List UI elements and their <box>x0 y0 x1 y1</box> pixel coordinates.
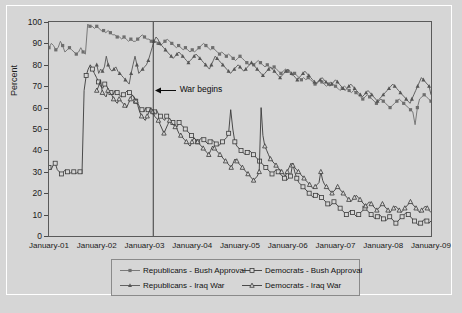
data-point-open-square <box>78 170 82 174</box>
data-point-open-square <box>375 215 379 219</box>
data-point-open-square <box>357 213 361 217</box>
data-point-open-square <box>270 172 274 176</box>
data-point-filled-square <box>259 61 262 64</box>
data-point-filled-square <box>402 102 405 105</box>
y-tick-label: 60 <box>20 104 42 112</box>
data-point-open-triangle <box>111 97 115 101</box>
data-point-open-square <box>121 93 125 97</box>
data-point-open-square <box>202 138 206 142</box>
data-point-filled-square <box>361 97 364 100</box>
data-point-filled-square <box>163 40 166 43</box>
data-point-filled-square <box>170 42 173 45</box>
data-point-open-square <box>49 166 51 170</box>
data-point-open-square <box>419 221 423 225</box>
data-point-filled-square <box>273 65 276 68</box>
data-point-open-triangle <box>162 131 166 135</box>
data-point-filled-square <box>238 55 241 58</box>
legend-label: Democrats - Bush Approval <box>265 266 362 275</box>
data-point-filled-square <box>129 38 132 41</box>
series-line <box>49 24 431 125</box>
data-point-filled-square <box>334 85 337 88</box>
y-tick-label: 30 <box>20 168 42 176</box>
data-point-open-triangle <box>268 157 272 161</box>
data-point-open-triangle <box>408 199 412 203</box>
data-point-filled-square <box>54 48 57 51</box>
data-point-filled-square <box>388 106 391 109</box>
y-tick-label: 10 <box>20 211 42 219</box>
legend-label: Republicans - Bush Approval <box>143 266 246 275</box>
data-point-filled-square <box>211 46 214 49</box>
legend-item: Democrats - Iraq War <box>242 281 341 290</box>
data-point-filled-square <box>82 50 85 53</box>
data-point-open-square <box>140 108 144 112</box>
chart-legend: Republicans - Bush ApprovalDemocrats - B… <box>111 259 360 296</box>
legend-item: Republicans - Bush Approval <box>120 266 246 275</box>
data-point-filled-square <box>68 46 71 49</box>
data-point-open-square <box>245 151 249 155</box>
data-point-open-square <box>128 91 132 95</box>
data-point-open-square <box>159 114 163 118</box>
data-point-filled-triangle <box>410 97 414 101</box>
data-point-open-triangle <box>380 202 384 206</box>
data-point-open-square <box>250 269 254 273</box>
y-tick-label: 80 <box>20 61 42 69</box>
data-point-filled-square <box>382 100 385 103</box>
legend-marker-open-triangle <box>242 281 262 290</box>
data-point-open-triangle <box>257 169 261 173</box>
data-point-open-square <box>289 174 293 178</box>
data-point-open-square <box>307 191 311 195</box>
data-point-open-square <box>233 140 237 144</box>
data-point-filled-triangle <box>129 71 133 75</box>
data-point-open-triangle <box>100 90 104 94</box>
data-point-filled-triangle <box>146 58 150 62</box>
series-line <box>97 37 431 103</box>
legend-marker-filled-triangle <box>120 281 140 290</box>
data-point-filled-square <box>95 25 98 28</box>
data-point-open-triangle <box>250 283 254 287</box>
data-point-open-square <box>301 185 305 189</box>
data-point-open-triangle <box>335 184 339 188</box>
data-point-open-square <box>103 82 107 86</box>
data-point-filled-square <box>245 61 248 64</box>
data-point-open-square <box>239 148 243 152</box>
data-point-filled-square <box>61 44 64 47</box>
data-point-filled-square <box>204 44 207 47</box>
data-point-open-square <box>264 166 268 170</box>
data-point-filled-square <box>409 108 412 111</box>
data-point-open-square <box>412 219 416 223</box>
data-point-filled-triangle <box>209 63 213 67</box>
y-axis-label: Percent <box>9 65 19 96</box>
data-point-filled-square <box>191 48 194 51</box>
data-point-open-square <box>220 140 224 144</box>
data-point-open-square <box>394 221 398 225</box>
data-point-filled-square <box>136 38 139 41</box>
war-begins-annotation: War begins <box>155 84 222 94</box>
chart-figure: Percent 0102030405060708090100 January-0… <box>0 0 462 313</box>
data-point-filled-square <box>177 44 180 47</box>
data-point-filled-square <box>395 100 398 103</box>
legend-label: Republicans - Iraq War <box>143 281 225 290</box>
data-point-open-triangle <box>95 88 99 92</box>
data-point-open-square <box>282 176 286 180</box>
data-point-open-square <box>369 213 373 217</box>
data-point-open-triangle <box>319 169 323 173</box>
data-point-open-triangle <box>190 139 194 143</box>
data-point-filled-square <box>143 35 146 38</box>
data-point-open-square <box>84 74 88 78</box>
data-point-open-square <box>66 170 70 174</box>
data-point-open-square <box>332 200 336 204</box>
data-point-filled-triangle <box>95 63 99 67</box>
data-point-filled-square <box>266 63 269 66</box>
y-tick-label: 100 <box>20 18 42 26</box>
data-point-open-square <box>344 213 348 217</box>
plot-area <box>48 21 432 237</box>
legend-item: Democrats - Bush Approval <box>242 266 362 275</box>
data-point-filled-square <box>423 93 426 96</box>
data-point-open-triangle <box>167 118 171 122</box>
data-point-filled-square <box>293 72 296 75</box>
data-point-open-square <box>165 114 169 118</box>
data-point-open-square <box>183 127 187 131</box>
data-point-open-triangle <box>145 114 149 118</box>
data-point-open-square <box>208 140 212 144</box>
y-tick-label: 50 <box>20 125 42 133</box>
